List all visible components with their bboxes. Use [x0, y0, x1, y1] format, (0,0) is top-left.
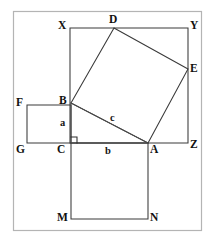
label-e: E [190, 63, 198, 75]
bounding-square-xyzw [70, 28, 188, 143]
label-m: M [57, 212, 68, 224]
pythagorean-diagram: X Y Z D E B F G C A M N a b c [0, 0, 214, 244]
label-side-c: c [110, 113, 115, 124]
tilted-square-bdea [71, 28, 188, 143]
outer-frame [14, 12, 202, 231]
label-n: N [150, 212, 158, 224]
label-y: Y [190, 20, 198, 32]
label-d: D [109, 14, 117, 26]
diagram-canvas [0, 0, 214, 244]
label-x: X [58, 20, 66, 32]
label-b: B [59, 95, 67, 107]
label-g: G [16, 144, 25, 156]
label-side-a: a [60, 118, 65, 129]
label-c-vertex: C [57, 144, 65, 156]
label-side-b: b [105, 146, 111, 157]
right-angle-marker [71, 137, 77, 143]
label-a-vertex: A [150, 144, 158, 156]
label-f: F [16, 97, 23, 109]
label-z: Z [190, 139, 198, 151]
